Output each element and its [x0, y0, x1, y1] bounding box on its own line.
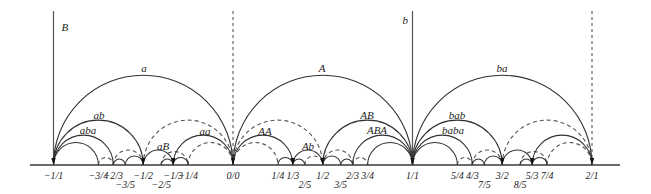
solid-geodesic-arc	[143, 150, 173, 165]
arc-word-label: ABA	[366, 124, 387, 136]
axis-tick-label: 1/3	[286, 170, 299, 181]
axis-tick-label: 1/4	[271, 170, 284, 181]
arc-word-label: a	[141, 62, 147, 74]
cusp-marker	[51, 158, 55, 165]
arc-word-label: Ab	[301, 140, 315, 152]
arc-word-label: A	[318, 62, 326, 74]
axis-tick-label: 1/2	[316, 170, 329, 181]
solid-geodesic-arc	[54, 135, 114, 165]
dashed-geodesic-arc	[305, 156, 323, 165]
cusp-marker	[590, 158, 594, 165]
solid-geodesic-arc	[278, 158, 293, 165]
solid-geodesic-arc	[532, 135, 592, 165]
axis-tick-label: −1/1	[44, 170, 64, 181]
dashed-geodesic-arc	[353, 158, 368, 165]
arc-word-label: AA	[257, 125, 272, 137]
solid-geodesic-arc	[293, 159, 305, 165]
dashed-geodesic-arc	[98, 158, 113, 165]
dashed-geodesic-arc	[502, 120, 592, 165]
axis-tick-label: 4/3	[466, 170, 479, 181]
solid-geodesic-arc	[472, 159, 484, 165]
axis-tick-label: 2/1	[586, 170, 599, 181]
axis-tick-label: 2/3	[346, 170, 359, 181]
axis-tick-label: 0/0	[227, 170, 240, 181]
solid-geodesic-arc	[532, 158, 547, 165]
solid-geodesic-arc	[413, 135, 473, 165]
solid-geodesic-arc	[353, 135, 413, 165]
axis-tick-label: 3/2	[495, 170, 509, 181]
arc-word-label: aB	[157, 140, 170, 152]
solid-geodesic-arc	[161, 159, 173, 165]
arc-word-label: ab	[94, 109, 106, 121]
solid-geodesic-arc	[54, 75, 234, 165]
solid-geodesic-arc	[233, 135, 293, 165]
vertical-label: b	[403, 14, 409, 26]
arc-word-label: ba	[497, 62, 509, 74]
axis-tick-label: 7/5	[478, 179, 491, 190]
axis-tick-label: 2/5	[298, 179, 311, 190]
solid-geodesic-arc	[341, 159, 353, 165]
axis-tick-label: −1/2	[133, 170, 153, 181]
axis-tick-label: 1/1	[406, 170, 419, 181]
axis-tick-label: 3/4	[360, 170, 374, 181]
farey-diagram: Bb aababaaBaaAAAAbABABAbababbaba −1/1−3/…	[0, 0, 651, 194]
solid-geodesic-arc	[233, 75, 413, 165]
dashed-geodesic-arc	[457, 158, 472, 165]
cusp-marker	[231, 158, 235, 165]
axis-tick-label: 5/4	[451, 170, 464, 181]
vertical-label: B	[62, 21, 69, 33]
arc-word-label: bab	[449, 109, 466, 121]
cusp-marker	[500, 158, 504, 165]
arc-word-label: AB	[359, 109, 374, 121]
cusp-markers	[51, 158, 594, 165]
axis-tick-label: 3/5	[333, 179, 347, 190]
axis-tick-label: −3/5	[116, 179, 136, 190]
solid-geodesic-arc	[54, 120, 144, 165]
vertical-geodesics: Bb	[54, 11, 593, 165]
arc-word-label: aba	[80, 124, 97, 136]
solid-geodesic-arc	[293, 150, 323, 165]
tick-labels: −1/1−3/4−2/3−3/5−1/2−2/5−1/3−1/40/01/41/…	[44, 170, 599, 190]
solid-geodesic-arc	[413, 75, 593, 165]
cusp-marker	[321, 158, 325, 165]
axis-tick-label: 8/5	[514, 179, 527, 190]
solid-geodesic-arc	[520, 159, 532, 165]
arc-word-label: aa	[200, 125, 212, 137]
cusp-marker	[410, 158, 414, 165]
solid-geodesic-arc	[113, 159, 125, 165]
arc-word-label: baba	[442, 124, 465, 136]
axis-tick-label: 7/4	[541, 170, 554, 181]
cusp-marker	[141, 158, 145, 165]
axis-tick-label: 5/3	[526, 170, 539, 181]
axis-tick-label: −1/4	[178, 170, 198, 181]
solid-geodesic-arc	[173, 135, 233, 165]
solid-geodesic-arc	[173, 158, 188, 165]
solid-geodesic-arc	[502, 150, 532, 165]
